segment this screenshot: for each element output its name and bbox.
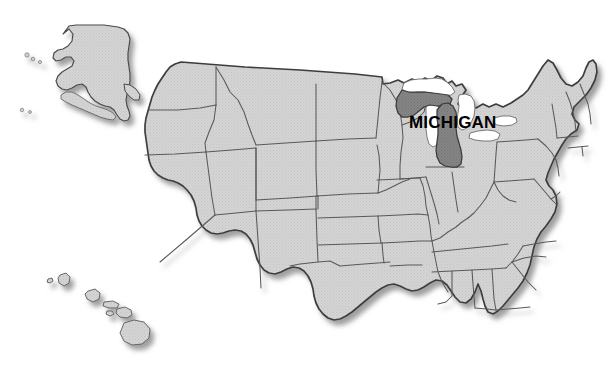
us-locator-map: MICHIGAN <box>0 0 616 374</box>
us-map-svg <box>0 0 616 374</box>
hawaii-inset-group <box>47 273 150 345</box>
border-nj-pa <box>556 160 559 176</box>
hawaii-island-molokai <box>103 301 119 308</box>
alaska-island-5 <box>29 111 32 114</box>
contiguous-us-landmass <box>145 60 597 320</box>
border-ct-ri <box>582 147 583 156</box>
border-ma-ct <box>568 146 588 148</box>
border-nv-ca <box>160 215 215 262</box>
lake-erie <box>469 130 500 141</box>
lake-ontario <box>493 116 517 126</box>
hawaii-island-lanai <box>106 311 114 316</box>
alaska-island-2 <box>31 57 35 61</box>
alaska-small-islands <box>20 53 41 114</box>
hawaii-island-big-island <box>120 320 150 345</box>
alaska-inset-group <box>20 25 140 121</box>
alaska-island-4 <box>20 108 24 112</box>
hawaii-island-oahu <box>85 289 100 302</box>
alaska-island-3 <box>38 60 41 63</box>
hawaii-island-kauai <box>58 273 70 286</box>
alaska-island-1 <box>25 53 29 57</box>
contiguous-us-group <box>145 60 597 320</box>
hawaii-island-maui <box>116 307 132 318</box>
hawaii-islet-niihau <box>47 278 53 283</box>
